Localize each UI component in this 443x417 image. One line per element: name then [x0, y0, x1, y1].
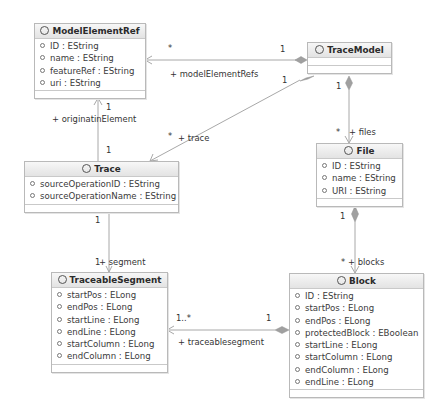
attribute[interactable]: endColumn : ELong [57, 350, 167, 362]
role-label[interactable]: + originatinElement [52, 114, 136, 124]
class-trace-model[interactable]: TraceModel [307, 42, 392, 74]
attributes-compartment [308, 58, 391, 65]
attribute-icon [40, 55, 45, 60]
attribute[interactable]: startLine : ELong [57, 314, 167, 326]
class-header: TraceableSegment [52, 273, 167, 288]
attribute[interactable]: name : EString [322, 172, 402, 184]
class-icon [82, 164, 91, 173]
attribute-icon [40, 43, 45, 48]
multiplicity-label: 1 [106, 145, 111, 155]
attribute[interactable]: sourceOperationName : EString [30, 190, 178, 202]
multiplicity-label: 1..* [176, 313, 191, 323]
attribute-icon [295, 379, 300, 384]
attribute[interactable]: ID : EString [295, 290, 423, 302]
class-header: File [317, 144, 402, 159]
attribute[interactable]: ID : EString [40, 40, 145, 52]
attribute[interactable]: endColumn : ELong [295, 364, 423, 376]
class-file[interactable]: File ID : EString name : EString URI : E… [316, 143, 403, 207]
class-header: Trace [25, 162, 178, 177]
class-block[interactable]: Block ID : EString startPos : ELong endP… [289, 273, 424, 398]
multiplicity-label: 1 [282, 75, 287, 85]
attribute-icon [57, 329, 62, 334]
role-label[interactable]: + files [349, 127, 376, 137]
attribute-icon [40, 80, 45, 85]
attribute-icon [57, 304, 62, 309]
role-label[interactable]: + modelElementRefs [170, 69, 258, 79]
attribute[interactable]: protectedBlock : EBoolean [295, 327, 423, 339]
attribute[interactable]: uri : EString [40, 77, 145, 89]
attribute-icon [30, 193, 35, 198]
attribute[interactable]: startPos : ELong [57, 289, 167, 301]
attribute-icon [57, 353, 62, 358]
attribute[interactable]: startPos : ELong [295, 302, 423, 314]
operations-compartment [52, 364, 167, 372]
attribute[interactable]: endPos : ELong [57, 301, 167, 313]
attribute-icon [322, 163, 327, 168]
class-trace[interactable]: Trace sourceOperationID : EString source… [24, 161, 179, 213]
class-icon [337, 276, 346, 285]
attribute[interactable]: startColumn : ELong [295, 351, 423, 363]
multiplicity-label: 1 [280, 44, 285, 54]
attribute[interactable]: endLine : ELong [57, 326, 167, 338]
role-label[interactable]: + traceablesegment [178, 337, 264, 347]
attribute-icon [40, 68, 45, 73]
attribute-icon [57, 317, 62, 322]
multiplicity-label: 1 [95, 215, 100, 225]
class-icon [344, 146, 353, 155]
role-label[interactable]: + trace [178, 133, 209, 143]
attribute[interactable]: sourceOperationID : EString [30, 178, 178, 190]
attribute[interactable]: startColumn : ELong [57, 338, 167, 350]
multiplicity-label: 1 [106, 102, 111, 112]
class-model-element-ref[interactable]: ModelElementRef ID : EString name : EStr… [34, 23, 146, 99]
operations-compartment [25, 204, 178, 212]
attribute[interactable]: ID : EString [322, 160, 402, 172]
multiplicity-label: * [168, 131, 172, 141]
attribute-icon [30, 181, 35, 186]
attribute[interactable]: startLine : ELong [295, 339, 423, 351]
role-label[interactable]: + segment [99, 257, 145, 267]
class-header: TraceModel [308, 43, 391, 58]
attribute-icon [295, 293, 300, 298]
multiplicity-label: 1 [266, 313, 271, 323]
attribute-icon [295, 318, 300, 323]
multiplicity-label: 1 [340, 211, 345, 221]
attribute[interactable]: featureRef : EString [40, 65, 145, 77]
attribute-icon [295, 342, 300, 347]
class-icon [315, 45, 324, 54]
multiplicity-label: * [336, 127, 340, 137]
attribute-icon [295, 354, 300, 359]
operations-compartment [35, 90, 145, 98]
multiplicity-label: * [168, 43, 172, 53]
class-icon [58, 275, 67, 284]
class-traceable-segment[interactable]: TraceableSegment startPos : ELong endPos… [51, 272, 168, 373]
attribute-icon [295, 330, 300, 335]
operations-compartment [290, 389, 423, 397]
attribute-icon [295, 367, 300, 372]
operations-compartment [308, 65, 391, 73]
attribute-icon [322, 188, 327, 193]
class-header: Block [290, 274, 423, 289]
attribute[interactable]: endLine : ELong [295, 376, 423, 388]
multiplicity-label: 1 [336, 81, 341, 91]
class-header: ModelElementRef [35, 24, 145, 39]
multiplicity-label: * [341, 257, 345, 267]
attribute[interactable]: name : EString [40, 52, 145, 64]
role-label[interactable]: + blocks [348, 257, 384, 267]
attribute-icon [57, 292, 62, 297]
operations-compartment [317, 198, 402, 206]
attribute[interactable]: endPos : ELong [295, 315, 423, 327]
attribute-icon [57, 341, 62, 346]
attribute-icon [322, 175, 327, 180]
attribute-icon [295, 305, 300, 310]
class-icon [40, 26, 49, 35]
attribute[interactable]: URI : EString [322, 185, 402, 197]
